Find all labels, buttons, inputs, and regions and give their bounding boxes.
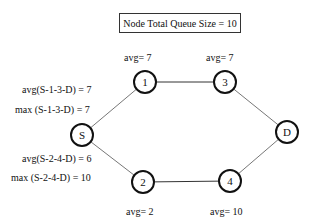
queue-size-title: Node Total Queue Size = 10 — [119, 13, 241, 33]
node-1: 1 — [133, 70, 157, 94]
lower-path-avg: avg(S-2-4-D) = 6 — [22, 153, 92, 164]
node-d: D — [275, 120, 299, 144]
node-2: 2 — [131, 170, 155, 194]
node-3: 3 — [213, 70, 237, 94]
node-1-avg: avg= 7 — [124, 52, 152, 63]
upper-path-avg: avg(S-1-3-D) = 7 — [22, 84, 92, 95]
node-3-avg: avg= 7 — [206, 52, 234, 63]
node-2-avg: avg= 2 — [126, 206, 154, 217]
node-4: 4 — [218, 169, 242, 193]
edge-2-4 — [143, 181, 230, 182]
node-s: S — [70, 123, 94, 147]
upper-path-max: max (S-1-3-D) = 7 — [15, 104, 90, 115]
lower-path-max: max (S-2-4-D) = 10 — [11, 172, 91, 183]
node-4-avg: avg= 10 — [210, 206, 243, 217]
